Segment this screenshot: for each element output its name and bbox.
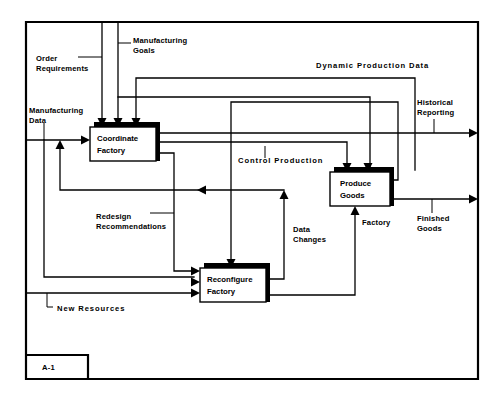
produce-goods-label-1: Produce (340, 179, 372, 188)
label-finished-goods-line1: Finished (417, 214, 450, 223)
label-order-requirements-line2: Requirements (36, 64, 88, 73)
label-data-changes-line2: Changes (293, 235, 326, 244)
label-new-resources: New Resources (57, 304, 125, 313)
flow-factory (266, 212, 355, 295)
produce-goods-label-2: Goods (340, 191, 365, 200)
reconfigure-factory-label-2: Factory (207, 287, 236, 296)
label-redesign-recommendations-line2: Recommendations (96, 222, 166, 231)
arrowhead-factory (351, 206, 360, 215)
reconfigure-factory-label-1: Reconfigure (207, 275, 253, 284)
label-historical-reporting-line1: Historical (417, 98, 453, 107)
label-historical-reporting-line2: Reporting (417, 108, 454, 117)
label-manufacturing-data-line2: Data (29, 116, 47, 125)
label-dynamic-production-data: Dynamic Production Data (316, 61, 429, 70)
arrowhead-manufacturing-data (81, 136, 90, 145)
label-data-changes-line1: Data (293, 225, 311, 234)
label-manufacturing-goals-line2: Goals (133, 46, 155, 55)
label-order-requirements-line1: Order (36, 54, 57, 63)
coordinate-factory-label-1: Coordinate (97, 134, 139, 143)
reconfigure-factory-face (200, 268, 266, 302)
arrowhead-data-changes (280, 190, 289, 199)
coordinate-factory-label-2: Factory (97, 146, 126, 155)
label-control-production: Control Production (238, 156, 323, 165)
arrowhead-feedback-left (197, 186, 206, 195)
arrowhead-feedback-coordinate (56, 140, 65, 149)
arrowhead-historical-reporting (469, 129, 478, 138)
arrowhead-new-resources-into-reconfigure (191, 289, 200, 298)
idef0-diagram: A-1 (0, 0, 503, 400)
box-produce-goods[interactable]: Produce Goods (330, 167, 394, 206)
diagram-frame (26, 22, 478, 379)
label-redesign-recommendations-line1: Redesign (96, 212, 132, 221)
arrowhead-finished-goods (469, 195, 478, 204)
arrowhead-manufacturing-data-into-reconfigure (191, 278, 200, 287)
node-id-box (26, 355, 88, 379)
label-finished-goods-line2: Goods (417, 224, 442, 233)
box-coordinate-factory[interactable]: Coordinate Factory (90, 122, 160, 161)
label-factory: Factory (362, 218, 391, 227)
label-manufacturing-goals-line1: Manufacturing (133, 36, 187, 45)
box-reconfigure-factory[interactable]: Reconfigure Factory (200, 263, 270, 302)
node-id-label: A-1 (42, 363, 56, 372)
coordinate-factory-face (90, 127, 156, 161)
flow-redesign-recommendations (156, 153, 194, 271)
diagram-canvas: A-1 (0, 0, 503, 400)
arrowhead-redesign-into-reconfigure (191, 267, 200, 276)
label-manufacturing-data-line1: Manufacturing (29, 106, 83, 115)
produce-goods-face (330, 172, 390, 206)
